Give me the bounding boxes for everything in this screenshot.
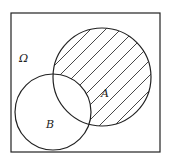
- set-b-circle: [15, 74, 91, 150]
- set-b-label: B: [45, 118, 54, 131]
- set-a-label: A: [100, 87, 109, 100]
- universe-label: Ω: [18, 52, 28, 65]
- venn-diagram: Ω A B: [0, 0, 172, 166]
- hatched-region-a-minus-b: [40, 25, 165, 135]
